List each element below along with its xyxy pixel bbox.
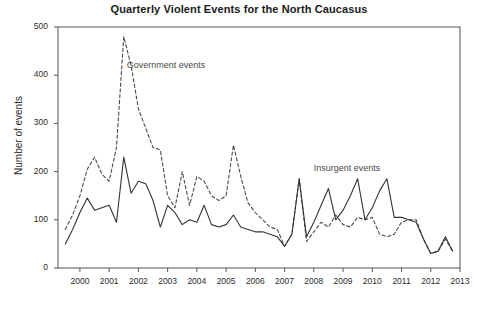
series-line-insurgent-events [65,157,452,253]
plot-area [0,0,478,314]
series-line-government-events [65,37,452,254]
y-tick-label: 400 [18,69,48,79]
data-series [65,37,452,254]
annotation-government: Government events [127,60,206,70]
chart-title: Quarterly Violent Events for the North C… [0,3,478,15]
annotation-insurgent: Insurgent events [314,163,381,173]
y-tick-label: 200 [18,166,48,176]
y-tick-label: 0 [18,262,48,272]
chart-figure: Quarterly Violent Events for the North C… [0,0,478,314]
y-tick-label: 500 [18,21,48,31]
axis-ticks [54,27,460,272]
y-axis-label: Number of events [13,71,24,201]
y-tick-label: 300 [18,117,48,127]
x-tick-label: 2013 [440,276,478,286]
y-tick-label: 100 [18,214,48,224]
